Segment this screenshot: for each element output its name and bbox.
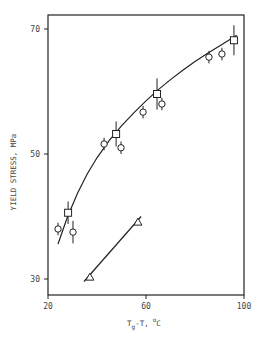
circle-marker (219, 48, 225, 61)
plot-frame (48, 15, 244, 295)
y-tick-label: 50 (30, 150, 40, 159)
square-marker (113, 122, 120, 147)
fit-curves (58, 35, 237, 281)
y-tick-label: 70 (30, 25, 40, 34)
triangle-marker (134, 218, 142, 225)
lower-fit-line (84, 217, 141, 282)
x-tick-label: 60 (141, 302, 151, 311)
x-axis-label: Tg-T,oC (127, 316, 161, 331)
x-tick-label: 20 (43, 302, 53, 311)
circle-marker (118, 142, 124, 155)
axis-ticks: 3050702060100 (30, 25, 251, 311)
square-marker (230, 25, 237, 55)
circle-marker (70, 221, 76, 244)
circle-marker (159, 98, 165, 111)
y-tick-label: 30 (30, 275, 40, 284)
x-tick-label: 100 (237, 302, 252, 311)
svg-text:Tg-T,oC: Tg-T,oC (127, 316, 161, 331)
circle-marker (206, 51, 212, 64)
data-points (55, 25, 238, 280)
chart: 3050702060100 YIELD STRESS, MPa Tg-T,oC (0, 0, 259, 338)
circle-marker (140, 106, 146, 119)
circle-marker (101, 138, 107, 151)
triangle-marker (86, 273, 94, 280)
circle-marker (55, 223, 61, 236)
upper-fit-curve (58, 35, 237, 244)
y-axis-label: YIELD STRESS, MPa (9, 134, 18, 211)
